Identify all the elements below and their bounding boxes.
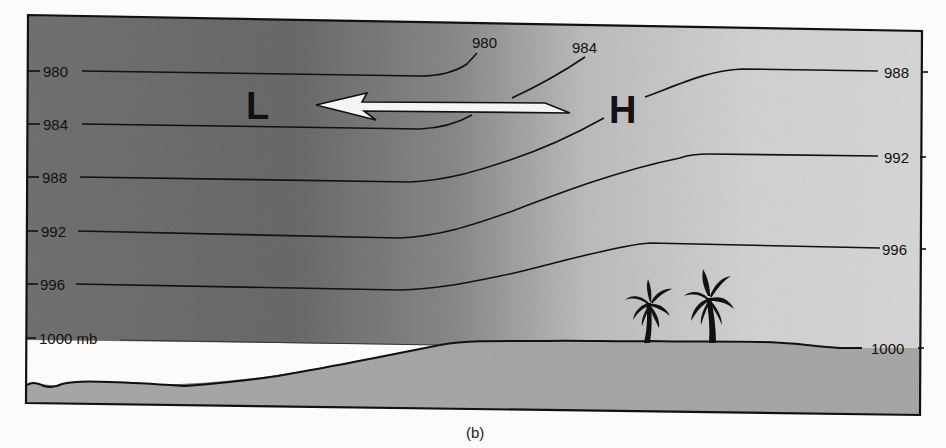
right-label-992: 992	[884, 149, 909, 166]
left-label-996: 996	[40, 276, 65, 293]
low-pressure-label: L	[246, 85, 269, 127]
right-label-988: 988	[884, 64, 909, 81]
left-label-984: 984	[43, 116, 68, 133]
isobar-cross-section-diagram: 980 984 988 992 996 1000 mb 988 992 996 …	[0, 0, 946, 448]
high-pressure-label: H	[609, 89, 636, 131]
right-label-996: 996	[882, 241, 907, 258]
left-label-992: 992	[41, 223, 66, 240]
right-label-1000: 1000	[871, 340, 904, 357]
top-label-984: 984	[572, 39, 597, 56]
top-label-980: 980	[472, 34, 497, 51]
figure-caption: (b)	[466, 424, 484, 441]
left-label-980: 980	[43, 63, 68, 80]
left-label-1000mb: 1000 mb	[39, 330, 97, 347]
left-label-988: 988	[42, 169, 67, 186]
